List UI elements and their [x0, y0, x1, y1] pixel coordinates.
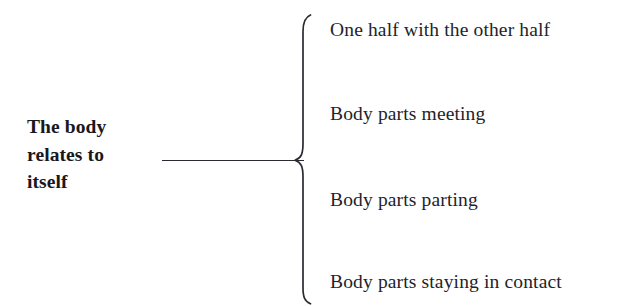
root-node-label: The body relates to itself [27, 113, 157, 196]
trunk-connector-line [162, 160, 304, 161]
branch-item-label: One half with the other half [330, 19, 550, 41]
branch-item-label: Body parts meeting [330, 103, 485, 125]
curly-brace [292, 12, 318, 298]
curly-brace-icon [292, 12, 318, 298]
branch-item-label: Body parts parting [330, 189, 478, 211]
branch-item-label: Body parts staying in contact [330, 271, 562, 293]
diagram-canvas: The body relates to itself One half with… [0, 0, 638, 306]
